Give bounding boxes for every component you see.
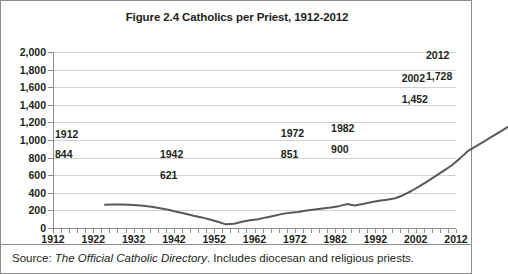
y-axis-label-400: 400 xyxy=(2,188,46,199)
x-axis-minor-tick-1954 xyxy=(222,229,223,233)
x-axis-minor-tick-1976 xyxy=(311,229,312,233)
source-publication: The Official Catholic Directory xyxy=(55,252,207,264)
annotation-value-1972: 851 xyxy=(281,149,304,161)
annotation-1972: 1972851 xyxy=(281,128,304,161)
y-axis-tick-1600 xyxy=(48,87,53,88)
x-axis-minor-tick-1972 xyxy=(295,229,296,233)
x-axis-minor-tick-1970 xyxy=(287,229,288,233)
y-axis-label-800: 800 xyxy=(2,153,46,164)
annotation-year-2012: 2012 xyxy=(426,50,452,62)
annotation-1982: 1982900 xyxy=(331,123,354,156)
y-axis-tick-600 xyxy=(48,175,53,176)
annotation-2002: 20021,452 xyxy=(402,73,428,106)
annotation-value-1912: 844 xyxy=(55,149,78,161)
x-axis-minor-tick-1928 xyxy=(117,229,118,233)
x-axis-label-1922: 1922 xyxy=(71,234,115,245)
y-axis-label-1400: 1,400 xyxy=(2,100,46,111)
x-axis-minor-tick-2008 xyxy=(440,229,441,233)
annotation-year-2002: 2002 xyxy=(402,73,428,85)
x-axis-minor-tick-1936 xyxy=(150,229,151,233)
x-axis-minor-tick-2002 xyxy=(416,229,417,233)
annotation-1942: 1942621 xyxy=(160,149,183,182)
annotation-year-1972: 1972 xyxy=(281,128,304,140)
x-axis-minor-tick-2000 xyxy=(408,229,409,233)
x-axis-minor-tick-1940 xyxy=(166,229,167,233)
source-suffix: . Includes diocesan and religious priest… xyxy=(207,252,414,264)
x-axis-minor-tick-1956 xyxy=(230,229,231,233)
x-axis-minor-tick-1994 xyxy=(383,229,384,233)
annotation-year-1982: 1982 xyxy=(331,123,354,135)
annotation-2012: 20121,728 xyxy=(426,50,452,83)
y-axis-label-1600: 1,600 xyxy=(2,82,46,93)
x-axis-label-1942: 1942 xyxy=(152,234,196,245)
x-axis-minor-tick-1914 xyxy=(61,229,62,233)
x-axis-minor-tick-1982 xyxy=(335,229,336,233)
x-axis-minor-tick-1930 xyxy=(126,229,127,233)
x-axis-minor-tick-1944 xyxy=(182,229,183,233)
x-axis-minor-tick-2006 xyxy=(432,229,433,233)
x-axis-minor-tick-1916 xyxy=(69,229,70,233)
data-line-svg xyxy=(105,103,508,274)
y-axis-tick-1200 xyxy=(48,122,53,123)
x-axis-minor-tick-1966 xyxy=(271,229,272,233)
y-axis-label-1200: 1,200 xyxy=(2,117,46,128)
chart-title: Figure 2.4 Catholics per Priest, 1912-20… xyxy=(1,11,473,23)
x-axis-minor-tick-1926 xyxy=(109,229,110,233)
x-axis-minor-tick-1938 xyxy=(158,229,159,233)
x-axis-minor-tick-1946 xyxy=(190,229,191,233)
x-axis-minor-tick-1978 xyxy=(319,229,320,233)
x-axis-minor-tick-1918 xyxy=(77,229,78,233)
x-axis-minor-tick-1986 xyxy=(351,229,352,233)
x-axis-minor-tick-1996 xyxy=(392,229,393,233)
x-axis-minor-tick-1968 xyxy=(279,229,280,233)
x-axis-minor-tick-1920 xyxy=(85,229,86,233)
x-axis-label-1992: 1992 xyxy=(353,234,397,245)
x-axis-minor-tick-2010 xyxy=(448,229,449,233)
source-note: Source: The Official Catholic Directory.… xyxy=(12,252,414,264)
annotation-value-2012: 1,728 xyxy=(426,71,452,83)
y-axis-label-1000: 1,000 xyxy=(2,135,46,146)
y-axis-tick-1000 xyxy=(48,140,53,141)
x-axis-minor-tick-1988 xyxy=(359,229,360,233)
x-axis-minor-tick-1952 xyxy=(214,229,215,233)
y-axis-tick-200 xyxy=(48,210,53,211)
x-axis-minor-tick-1934 xyxy=(142,229,143,233)
x-axis-minor-tick-1922 xyxy=(93,229,94,233)
x-axis-label-1962: 1962 xyxy=(233,234,277,245)
y-axis-tick-400 xyxy=(48,193,53,194)
annotation-value-2002: 1,452 xyxy=(402,94,428,106)
x-axis-minor-tick-1964 xyxy=(263,229,264,233)
x-axis-minor-tick-1932 xyxy=(134,229,135,233)
gridline-2000 xyxy=(53,52,456,53)
x-axis-minor-tick-1974 xyxy=(303,229,304,233)
y-axis-tick-1800 xyxy=(48,70,53,71)
x-axis-minor-tick-2012 xyxy=(456,229,457,233)
annotation-value-1942: 621 xyxy=(160,170,183,182)
x-axis-minor-tick-1950 xyxy=(206,229,207,233)
gridline-1800 xyxy=(53,70,456,71)
gridline-1600 xyxy=(53,87,456,88)
x-axis-label-1972: 1972 xyxy=(273,234,317,245)
y-axis-tick-1400 xyxy=(48,105,53,106)
x-axis-minor-tick-1980 xyxy=(327,229,328,233)
y-axis-label-0: 0 xyxy=(2,223,46,234)
x-axis-minor-tick-1958 xyxy=(238,229,239,233)
y-axis-line xyxy=(53,52,54,229)
x-axis-label-1952: 1952 xyxy=(192,234,236,245)
annotation-year-1912: 1912 xyxy=(55,129,78,141)
plot-area xyxy=(53,52,456,228)
x-axis-minor-tick-1998 xyxy=(400,229,401,233)
x-axis-label-1932: 1932 xyxy=(112,234,156,245)
annotation-value-1982: 900 xyxy=(331,144,354,156)
x-axis-minor-tick-1960 xyxy=(246,229,247,233)
source-prefix: Source: xyxy=(12,252,55,264)
x-axis-minor-tick-1992 xyxy=(375,229,376,233)
x-axis-label-2002: 2002 xyxy=(394,234,438,245)
x-axis-minor-tick-1942 xyxy=(174,229,175,233)
annotation-year-1942: 1942 xyxy=(160,149,183,161)
x-axis-minor-tick-2004 xyxy=(424,229,425,233)
y-axis-label-200: 200 xyxy=(2,205,46,216)
y-axis-tick-2000 xyxy=(48,52,53,53)
x-axis-minor-tick-1924 xyxy=(101,229,102,233)
